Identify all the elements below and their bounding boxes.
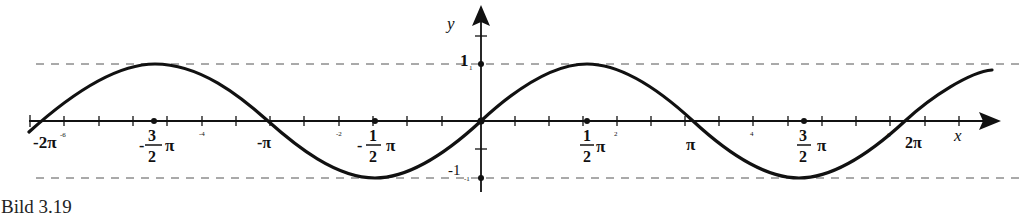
svg-text:π: π: [596, 137, 606, 156]
svg-text:3: 3: [799, 127, 807, 144]
svg-text:3: 3: [148, 127, 156, 144]
svg-text:1: 1: [583, 127, 591, 144]
y-label-minus1-small: -1: [464, 175, 470, 183]
y-axis-label: y: [445, 14, 455, 33]
y-label-1-small: 1: [469, 64, 473, 72]
label-minus-1-2-pi: - 1 2 π: [357, 127, 396, 165]
svg-text:2: 2: [369, 148, 377, 165]
y-label-minus1: -1: [448, 162, 461, 178]
x-num-minus6: -6: [60, 131, 66, 139]
x-num-minus4: -4: [199, 130, 205, 138]
label-minus-pi: -π: [257, 134, 271, 151]
svg-text:1: 1: [369, 127, 377, 144]
svg-text:-: -: [357, 137, 362, 154]
y-label-1: 1: [460, 51, 469, 70]
svg-text:2: 2: [148, 148, 156, 165]
label-2pi: 2π: [905, 134, 922, 151]
sine-chart: y x 1 1 -1 -1 -6 -4 -2 2 4 6 -2π - 3 2 π…: [0, 0, 1026, 200]
label-3-2-pi: 3 2 π: [797, 127, 827, 165]
label-minus-3-2-pi: - 3 2 π: [139, 127, 175, 165]
svg-text:2: 2: [799, 148, 807, 165]
x-num-2: 2: [614, 130, 618, 138]
svg-text:-: -: [139, 137, 144, 154]
figure-caption: Bild 3.19: [1, 196, 72, 218]
label-pi: π: [686, 135, 696, 154]
svg-text:π: π: [386, 136, 396, 155]
svg-text:π: π: [817, 136, 827, 155]
svg-text:2: 2: [583, 148, 591, 165]
label-minus-2pi: -2π: [33, 133, 57, 152]
label-1-2-pi: 1 2 π: [580, 127, 606, 165]
x-num-6: 6: [887, 131, 891, 139]
x-axis-label: x: [953, 126, 962, 145]
x-num-4: 4: [750, 130, 754, 138]
x-num-minus2: -2: [336, 130, 342, 138]
svg-text:π: π: [165, 136, 175, 155]
